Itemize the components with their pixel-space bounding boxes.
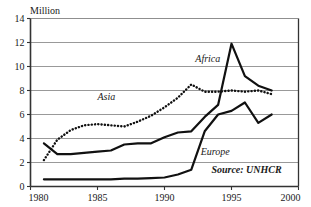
x-tick-label-2000: 2000: [281, 192, 301, 203]
y-tick-label-12: 12: [15, 37, 25, 48]
y-tick-label-0: 0: [20, 181, 25, 192]
refugee-population-line-chart: 02468101214 19801985199019952000 Million…: [0, 0, 311, 207]
y-tick-label-4: 4: [20, 133, 25, 144]
x-tick-label-1985: 1985: [88, 192, 108, 203]
y-axis-unit-label: Million: [30, 5, 60, 16]
y-tick-label-14: 14: [15, 13, 25, 24]
series-label-africa: Africa: [194, 53, 220, 64]
x-tick-label-1980: 1980: [29, 192, 49, 203]
y-tick-label-8: 8: [20, 85, 25, 96]
series-label-asia: Asia: [97, 91, 116, 102]
chart-background: [0, 0, 311, 207]
chart-canvas: 02468101214 19801985199019952000 Million…: [0, 0, 311, 207]
y-tick-label-10: 10: [15, 61, 25, 72]
source-attribution-label: Source: UNHCR: [211, 164, 282, 175]
x-tick-label-1990: 1990: [155, 192, 175, 203]
series-label-europe: Europe: [200, 146, 231, 157]
x-tick-label-1995: 1995: [222, 192, 242, 203]
y-tick-label-2: 2: [20, 157, 25, 168]
y-tick-label-6: 6: [20, 109, 25, 120]
